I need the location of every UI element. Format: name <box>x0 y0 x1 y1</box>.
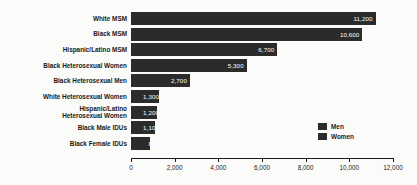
legend-entry: Men <box>318 123 354 130</box>
bar-value-label: 6,700 <box>249 43 274 56</box>
bar-chart: White MSMBlack MSMHispanic/Latino MSMBla… <box>0 0 417 185</box>
bar-value-label: 1,300 <box>134 90 159 103</box>
bar-value-label: 2,700 <box>162 74 187 87</box>
bar-row: 11,200 <box>131 12 393 25</box>
bar-value-label: 1,100 <box>134 121 159 134</box>
legend-label: Women <box>331 133 354 140</box>
bar-value-label: 850 <box>134 137 159 150</box>
axis-tick-label: 2,000 <box>167 164 183 171</box>
axis-tick-label: 8,000 <box>298 164 314 171</box>
category-label: Black Female IDUs <box>70 140 127 148</box>
bar-row: 1,300 <box>131 90 393 103</box>
category-label: Black Heterosexual Women <box>43 62 127 70</box>
category-axis-labels: White MSMBlack MSMHispanic/Latino MSMBla… <box>0 6 127 158</box>
bar <box>131 12 376 25</box>
axis-tick <box>175 158 176 162</box>
bar-row: 6,700 <box>131 43 393 56</box>
bar-value-label: 11,200 <box>348 12 373 25</box>
bar-row: 10,600 <box>131 28 393 41</box>
axis-tick <box>349 158 350 162</box>
axis-tick-label: 0 <box>129 164 133 171</box>
category-label: Black MSM <box>93 30 127 38</box>
bar-value-label: 5,300 <box>219 59 244 72</box>
category-label: Hispanic/Latino Heterosexual Women <box>62 105 127 120</box>
category-label: Hispanic/Latino MSM <box>63 46 127 54</box>
bar-row: 5,300 <box>131 59 393 72</box>
axis-tick <box>218 158 219 162</box>
axis-tick <box>131 158 132 162</box>
bar <box>131 28 362 41</box>
legend-label: Men <box>331 123 344 130</box>
axis-tick-label: 6,000 <box>254 164 270 171</box>
legend: MenWomen <box>318 123 354 143</box>
category-label: White MSM <box>93 15 127 23</box>
bar-row: 1,200 <box>131 106 393 119</box>
axis-tick <box>262 158 263 162</box>
axis-tick <box>393 158 394 162</box>
category-label: Black Male IDUs <box>78 124 127 132</box>
axis-tick-label: 10,000 <box>340 164 360 171</box>
category-label: White Heterosexual Women <box>43 93 127 101</box>
axis-tick-label: 4,000 <box>210 164 226 171</box>
axis-tick-label: 12,000 <box>383 164 403 171</box>
legend-swatch-icon <box>318 133 327 140</box>
bar-row: 2,700 <box>131 74 393 87</box>
category-label: Black Heterosexual Men <box>53 77 127 85</box>
axis-tick <box>306 158 307 162</box>
bar-value-label: 10,600 <box>334 28 359 41</box>
legend-swatch-icon <box>318 123 327 130</box>
legend-entry: Women <box>318 133 354 140</box>
bar-value-label: 1,200 <box>134 106 159 119</box>
